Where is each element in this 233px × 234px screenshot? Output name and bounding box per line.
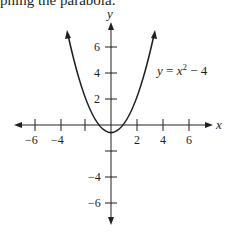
- x-axis-left-arrow-icon: [14, 122, 22, 128]
- y-tick-label: 2: [94, 93, 100, 105]
- y-tick-label: −4: [88, 171, 101, 183]
- x-tick-label: −6: [25, 134, 38, 146]
- x-tick-label: 6: [186, 134, 192, 146]
- y-axis-label: y: [107, 6, 113, 22]
- curve-left-arrow-icon: [65, 30, 71, 39]
- equation-rest: − 4: [187, 63, 207, 78]
- y-tick-label: −6: [88, 197, 101, 209]
- y-axis-up-arrow-icon: [108, 22, 114, 30]
- x-tick-label: −4: [51, 134, 64, 146]
- x-axis-label: x: [216, 117, 222, 133]
- x-tick-label: 2: [134, 134, 140, 146]
- x-axis-right-arrow-icon: [205, 122, 213, 128]
- y-axis-down-arrow-icon: [108, 217, 114, 225]
- x-axis: [14, 119, 213, 131]
- curve-right-arrow-icon: [151, 30, 157, 39]
- graph-canvas: [0, 0, 233, 234]
- x-tick-label: 4: [160, 134, 166, 146]
- y-tick-label: 4: [94, 67, 100, 79]
- y-tick-label: 6: [94, 41, 100, 53]
- equation-equals: =: [163, 63, 177, 78]
- y-axis: [105, 22, 117, 225]
- equation-label: y = x2 − 4: [157, 63, 207, 79]
